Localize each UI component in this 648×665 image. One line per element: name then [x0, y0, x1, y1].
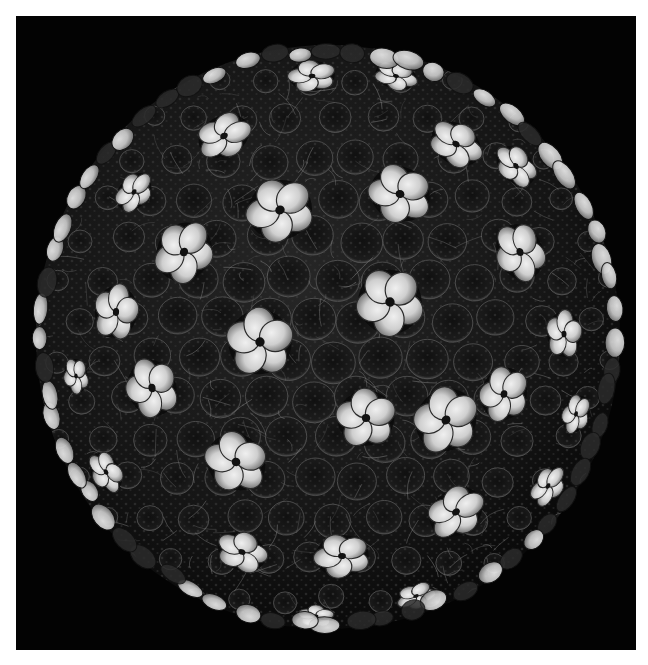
capsid-sphere	[23, 27, 636, 650]
capsid-render	[16, 16, 636, 650]
virus-capsid-image: Rendered surface model of an icosahedral…	[16, 16, 636, 650]
